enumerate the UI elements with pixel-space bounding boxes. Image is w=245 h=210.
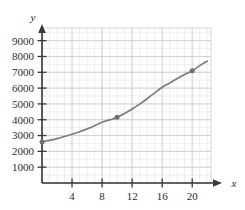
x-axis-tick-label: 8	[99, 190, 105, 202]
x-axis-label: x	[231, 177, 237, 189]
y-axis-tick-label: 3000	[12, 129, 35, 141]
y-axis-tick-label: 2000	[12, 145, 35, 157]
chart-figure: 100020003000400050006000700080009000 481…	[0, 0, 245, 210]
x-axis-tick-label: 16	[157, 190, 169, 202]
chart-background	[0, 0, 245, 210]
y-axis-tick-label: 8000	[12, 50, 35, 62]
y-axis-tick-labels: 100020003000400050006000700080009000	[12, 35, 35, 174]
y-axis-tick-label: 9000	[12, 35, 35, 47]
data-point-marker	[40, 139, 45, 144]
y-axis-tick-label: 6000	[12, 82, 35, 94]
y-axis-label: y	[30, 11, 36, 23]
exponential-growth-chart: 100020003000400050006000700080009000 481…	[0, 0, 245, 210]
data-point-marker	[115, 115, 120, 120]
x-axis-tick-label: 12	[127, 190, 138, 202]
x-axis-tick-label: 20	[187, 190, 199, 202]
y-axis-tick-label: 5000	[12, 98, 35, 110]
y-axis-tick-label: 4000	[12, 114, 35, 126]
y-axis-tick-label: 7000	[12, 66, 35, 78]
data-point-marker	[190, 68, 195, 73]
y-axis-tick-label: 1000	[12, 161, 35, 173]
x-axis-tick-label: 4	[69, 190, 75, 202]
